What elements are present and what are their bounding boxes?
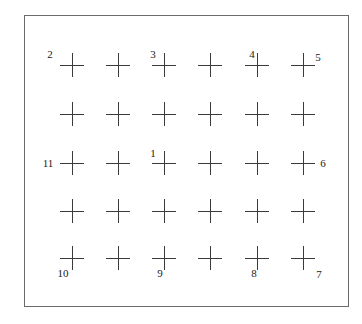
point-label: 3: [150, 49, 156, 60]
crosshair-marker-icon: [60, 199, 84, 223]
crosshair-marker-icon: [198, 246, 222, 270]
crosshair-marker-icon: [152, 102, 176, 126]
crosshair-marker-icon: [106, 151, 130, 175]
crosshair-marker-icon: [60, 102, 84, 126]
point-label: 8: [251, 268, 257, 279]
crosshair-marker-icon: [245, 151, 269, 175]
crosshair-marker-icon: [245, 199, 269, 223]
crosshair-marker-icon: [291, 102, 315, 126]
crosshair-marker-icon: [198, 102, 222, 126]
crosshair-marker-icon: [106, 53, 130, 77]
point-label: 1: [150, 148, 156, 159]
crosshair-marker-icon: [291, 199, 315, 223]
point-label: 9: [157, 268, 163, 279]
point-label: 10: [58, 268, 69, 279]
crosshair-marker-icon: [198, 151, 222, 175]
crosshair-marker-icon: [60, 53, 84, 77]
point-label: 7: [316, 269, 322, 280]
crosshair-marker-icon: [152, 199, 176, 223]
crosshair-marker-icon: [291, 246, 315, 270]
crosshair-marker-icon: [291, 151, 315, 175]
crosshair-marker-icon: [106, 246, 130, 270]
point-label: 6: [320, 158, 326, 169]
crosshair-marker-icon: [245, 102, 269, 126]
point-label: 2: [47, 49, 53, 60]
crosshair-marker-icon: [152, 246, 176, 270]
crosshair-marker-icon: [60, 151, 84, 175]
crosshair-marker-icon: [106, 199, 130, 223]
point-label: 4: [249, 49, 255, 60]
crosshair-marker-icon: [198, 199, 222, 223]
crosshair-marker-icon: [106, 102, 130, 126]
crosshair-marker-icon: [291, 53, 315, 77]
point-label: 11: [43, 158, 54, 169]
crosshair-marker-icon: [198, 53, 222, 77]
calibration-diagram: 1234567891011: [0, 0, 362, 324]
point-label: 5: [315, 52, 321, 63]
